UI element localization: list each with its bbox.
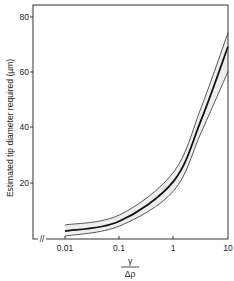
x-axis-label: γ Δρ bbox=[121, 256, 139, 279]
curves bbox=[65, 33, 228, 236]
y-tick-label: 60 bbox=[20, 67, 30, 77]
axis-break-mark: // bbox=[40, 234, 45, 244]
x-label-denominator: Δρ bbox=[125, 269, 136, 279]
y-tick-label: 80 bbox=[20, 12, 30, 22]
y-axis: 80 60 40 20 bbox=[20, 12, 33, 188]
x-tick-label: 0.01 bbox=[57, 243, 74, 253]
x-label-numerator: γ bbox=[128, 256, 133, 266]
x-tick-label: 0.1 bbox=[113, 243, 125, 253]
x-tick-label: 10 bbox=[223, 243, 233, 253]
y-axis-label: Estimated tip diameter required (µm) bbox=[5, 59, 15, 197]
y-tick-label: 20 bbox=[20, 178, 30, 188]
y-tick-label: 40 bbox=[20, 122, 30, 132]
chart: // 80 60 40 20 0.01 0.1 1 10 γ Δρ Estima… bbox=[0, 0, 234, 281]
series-upper-bound bbox=[65, 33, 228, 225]
x-tick-label: 1 bbox=[171, 243, 176, 253]
